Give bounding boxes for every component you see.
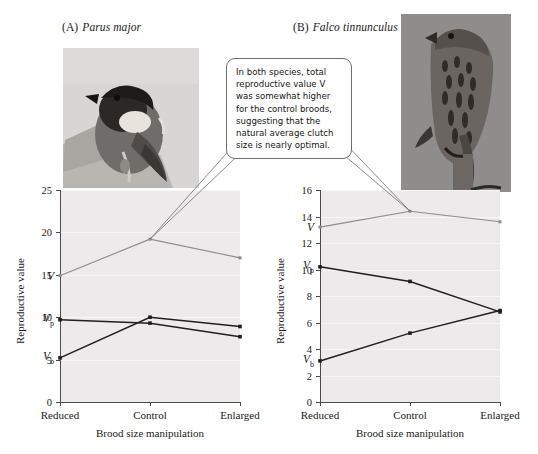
data-point-Vb-enlarged [238,325,242,329]
chart-parus-major: 0510152025ReducedControlEnlargedBrood si… [60,190,240,402]
panel-a-title: (A)Parus major [62,21,141,33]
x-tick [60,402,61,406]
y-tick-label: 20 [20,227,52,238]
data-point-Vp-control [148,321,152,325]
y-tick-label: 25 [20,185,52,196]
chart-falco-tinnunculus: 0246810121416ReducedControlEnlargedBrood… [320,190,500,402]
callout-text: In both species, total reproductive valu… [236,67,333,150]
x-tick [410,402,411,406]
data-point-V-control [409,210,412,213]
series-label-Vb: Vb [43,350,54,365]
data-point-Vb-reduced [58,356,62,360]
x-axis-title: Brood size manipulation [96,427,204,439]
x-tick [150,402,151,406]
x-tick-label-reduced: Reduced [301,409,339,421]
series-line-V [320,211,500,227]
panel-b-tag: (B) [293,21,309,33]
y-axis-title: Reproductive value [274,258,286,344]
panel-b-title: (B)Falco tinnunculus [293,21,398,33]
series-label-Vp: Vp [303,259,314,274]
y-tick-label: 0 [20,397,52,408]
panel-b-species: Falco tinnunculus [309,21,398,33]
x-axis-title: Brood size manipulation [356,427,464,439]
data-point-Vp-reduced [58,318,62,322]
data-point-Vb-enlarged [498,309,502,313]
series-line-V [60,239,240,275]
x-tick-label-enlarged: Enlarged [220,409,260,421]
x-tick-label-control: Control [133,409,167,421]
data-point-Vp-reduced [318,265,322,269]
data-point-V-control [149,238,152,241]
series-line-Vb [320,311,500,361]
x-tick-label-control: Control [393,409,427,421]
y-tick-label: 2 [280,370,312,381]
y-tick-label: 0 [280,397,312,408]
x-tick-label-enlarged: Enlarged [480,409,520,421]
series-label-V: V [307,221,314,233]
y-tick-label: 16 [280,185,312,196]
x-tick [320,402,321,406]
x-tick [240,402,241,406]
series-label-V: V [47,270,54,282]
series-line-Vp [320,267,500,312]
data-point-Vb-control [148,315,152,319]
x-tick-label-reduced: Reduced [41,409,79,421]
common-kestrel-photograph [401,14,511,192]
y-axis-title: Reproductive value [14,258,26,344]
series-label-Vb: Vb [303,353,314,368]
panel-a-tag: (A) [62,21,78,33]
x-tick [500,402,501,406]
series-label-Vp: Vp [43,312,54,327]
panel-a-species: Parus major [78,21,141,33]
data-point-Vb-control [408,331,412,335]
data-point-Vp-enlarged [238,335,242,339]
data-point-V-enlarged [499,220,502,223]
series-layer [320,190,500,402]
data-point-V-reduced [319,226,322,229]
data-point-V-enlarged [239,256,242,259]
y-tick-label: 12 [280,238,312,249]
data-point-V-reduced [59,274,62,277]
great-tit-photograph [63,48,199,188]
data-point-Vb-reduced [318,359,322,363]
callout-box: In both species, total reproductive valu… [226,58,352,159]
data-point-Vp-control [408,280,412,284]
series-layer [60,190,240,402]
